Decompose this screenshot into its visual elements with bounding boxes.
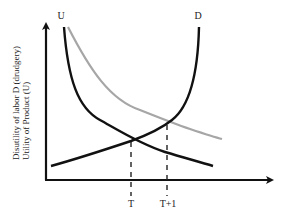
utility-curve-u [64,27,213,166]
curve-label-u: U [57,10,65,21]
disutility-curve-d [51,27,199,166]
x-tick-label-t: T [128,198,134,209]
y-axis-label-line1: Disutility of labor D (drudgery) [11,46,21,160]
y-axis-label-line2: Utility of Product (U) [21,82,31,160]
x-tick-label-t-plus-1: T+1 [160,198,177,209]
utility-disutility-diagram: U D T T+1 Disutility of labor D (drudger… [0,0,283,218]
curve-label-d: D [194,10,201,21]
